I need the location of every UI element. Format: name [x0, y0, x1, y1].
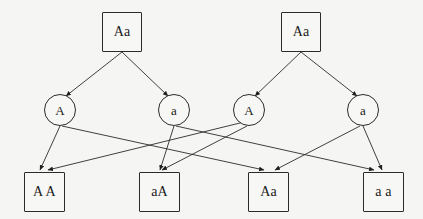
gamete-circle-1[interactable]: A	[44, 94, 76, 126]
gamete-circle-4-label: a	[360, 104, 366, 117]
edge-parentR-gamete_a	[301, 52, 357, 96]
gamete-circle-2[interactable]: a	[158, 94, 190, 126]
parent-box-right[interactable]: Aa	[281, 12, 321, 52]
offspring-box-2[interactable]: aA	[139, 172, 180, 212]
parent-box-left[interactable]: Aa	[102, 12, 142, 52]
edge-g4-o3	[275, 126, 360, 170]
offspring-box-1[interactable]: A A	[24, 172, 65, 212]
gamete-circle-4[interactable]: a	[347, 94, 379, 126]
offspring-box-1-label: A A	[33, 185, 56, 199]
offspring-box-4[interactable]: a a	[363, 172, 404, 212]
edge-parentR-gameteA	[255, 52, 301, 96]
edge-g2-o4	[176, 126, 374, 170]
edge-g4-o4	[363, 126, 382, 170]
offspring-box-4-label: a a	[375, 185, 392, 199]
genetics-cross-diagram: Aa Aa A a A a A A aA Aa a a	[0, 0, 423, 219]
gamete-circle-1-label: A	[55, 104, 64, 117]
edge-parentL-gameteA	[66, 52, 122, 96]
edge-g1-o1	[40, 126, 60, 170]
gamete-circle-3[interactable]: A	[233, 94, 265, 126]
offspring-box-3-label: Aa	[260, 185, 277, 199]
gamete-circle-2-label: a	[171, 104, 177, 117]
parent-box-left-label: Aa	[114, 25, 131, 39]
offspring-box-3[interactable]: Aa	[248, 172, 289, 212]
offspring-box-2-label: aA	[151, 185, 168, 199]
parent-box-right-label: Aa	[293, 25, 310, 39]
edge-parentL-gamete_a	[122, 52, 168, 96]
gamete-circle-3-label: A	[244, 104, 253, 117]
